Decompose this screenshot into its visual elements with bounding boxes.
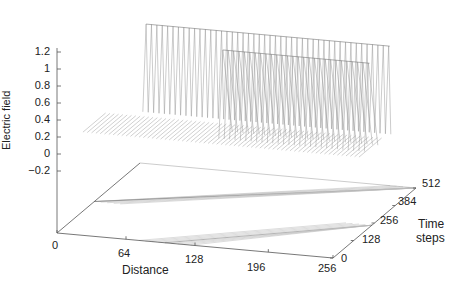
surface-plot (0, 0, 456, 285)
z-tick-label: −0.2 (10, 165, 50, 176)
time-axis-label-line1: Time (418, 218, 444, 230)
time-tick-label: 512 (422, 178, 440, 189)
surface-mesh (83, 24, 391, 157)
x-tick-label: 196 (247, 262, 265, 273)
x-tick-label: 64 (118, 248, 130, 259)
time-axis-label-line2: steps (416, 232, 445, 244)
z-tick-label: 0.4 (10, 114, 50, 125)
x-axis-label: Distance (122, 264, 169, 276)
z-tick-label: 0.8 (10, 80, 50, 91)
z-tick-label: 1 (10, 63, 50, 74)
z-axis-label: Electric field (0, 91, 12, 150)
x-tick-label: 128 (185, 254, 203, 265)
z-tick-label: 0 (10, 148, 50, 159)
time-tick-label: 0 (341, 253, 347, 264)
time-tick-label: 256 (380, 215, 398, 226)
z-tick-label: 0.6 (10, 97, 50, 108)
time-tick-label: 128 (362, 234, 380, 245)
z-tick-label: 0.2 (10, 131, 50, 142)
z-tick-label: 1.2 (10, 46, 50, 57)
x-tick-label: 256 (318, 263, 336, 274)
x-tick-label: 0 (52, 240, 58, 251)
time-tick-label: 384 (398, 196, 416, 207)
